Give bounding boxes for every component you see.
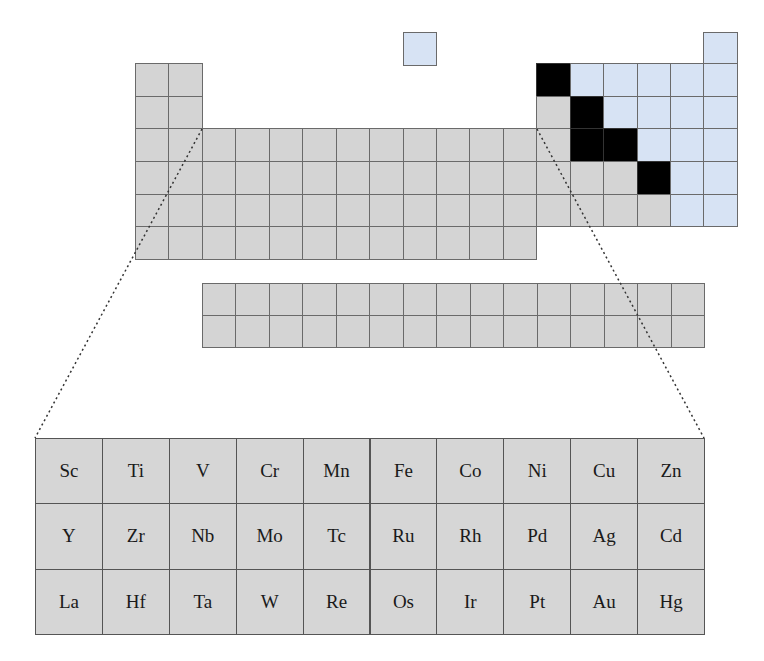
element-cell-sc: Sc — [35, 438, 103, 504]
element-cell-hg: Hg — [637, 569, 705, 635]
element-cell-mn: Mn — [303, 438, 371, 504]
element-cell-cr: Cr — [236, 438, 304, 504]
element-cell-co: Co — [436, 438, 504, 504]
element-cell-ni: Ni — [503, 438, 571, 504]
element-cell-nb: Nb — [169, 503, 237, 569]
element-cell-re: Re — [303, 569, 371, 635]
element-cell-os: Os — [370, 569, 438, 635]
element-cell-cu: Cu — [570, 438, 638, 504]
element-cell-au: Au — [570, 569, 638, 635]
element-cell-w: W — [236, 569, 304, 635]
element-cell-pt: Pt — [503, 569, 571, 635]
element-cell-fe: Fe — [370, 438, 438, 504]
element-cell-mo: Mo — [236, 503, 304, 569]
element-cell-pd: Pd — [503, 503, 571, 569]
element-cell-v: V — [169, 438, 237, 504]
element-cell-zn: Zn — [637, 438, 705, 504]
zoom-line-left — [35, 129, 202, 438]
element-cell-zr: Zr — [102, 503, 170, 569]
element-cell-ta: Ta — [169, 569, 237, 635]
element-cell-rh: Rh — [436, 503, 504, 569]
element-cell-ag: Ag — [570, 503, 638, 569]
element-cell-tc: Tc — [303, 503, 371, 569]
element-cell-ru: Ru — [370, 503, 438, 569]
element-cell-ir: Ir — [436, 569, 504, 635]
element-cell-hf: Hf — [102, 569, 170, 635]
element-cell-cd: Cd — [637, 503, 705, 569]
element-cell-ti: Ti — [102, 438, 170, 504]
element-cell-y: Y — [35, 503, 103, 569]
zoom-line-right — [537, 129, 704, 438]
element-cell-la: La — [35, 569, 103, 635]
